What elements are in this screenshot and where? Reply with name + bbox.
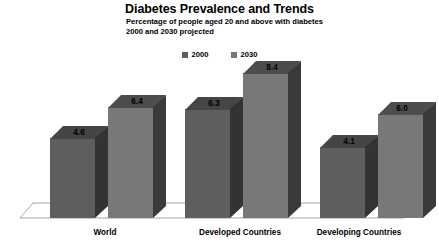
bar-side-face [95, 126, 108, 218]
bar-value-developing-2000: 4.1 [320, 137, 378, 146]
legend-swatch-icon-2000 [182, 52, 188, 58]
bar-value-developing-2030: 6.0 [373, 104, 431, 113]
category-label-developed: Developed Countries [185, 228, 295, 238]
bar-developing-2000[interactable] [320, 147, 365, 218]
bar-developed-2030[interactable] [243, 73, 288, 218]
legend-swatch-icon-2030 [231, 52, 237, 58]
legend-label-2030: 2030 [241, 51, 258, 59]
bar-value-world-2030: 6.4 [108, 97, 166, 106]
bar-developed-2000[interactable] [185, 109, 230, 218]
bar-side-face [153, 95, 166, 218]
bar-front-face [243, 73, 288, 218]
legend-label-2000: 2000 [192, 51, 209, 59]
bar-side-face [230, 97, 243, 218]
bars-layer: 4.6 6.4 [0, 66, 439, 226]
legend-entry-2030[interactable]: 2030 [231, 51, 258, 59]
chart-subtitle-line-1: Percentage of people aged 20 and above w… [126, 17, 426, 27]
bar-value-developed-2000: 6.3 [185, 99, 243, 108]
legend-entry-2000[interactable]: 2000 [182, 51, 209, 59]
category-label-developing: Developing Countries [300, 228, 418, 238]
bar-side-face [365, 135, 378, 218]
bar-world-2030[interactable] [108, 107, 153, 218]
bar-world-2000[interactable] [50, 138, 95, 218]
bar-front-face [50, 138, 95, 218]
chart-subtitle-line-2: 2000 and 2030 projected [126, 27, 426, 37]
bar-developing-2030[interactable] [378, 114, 423, 218]
diabetes-prevalence-chart: Diabetes Prevalence and Trends Percentag… [0, 0, 439, 248]
plot-area: 4.6 6.4 [0, 66, 439, 226]
bar-side-face [423, 102, 436, 218]
bar-side-face [288, 61, 301, 218]
category-label-world: World [60, 228, 150, 238]
subtitle-block: Percentage of people aged 20 and above w… [126, 17, 426, 36]
title-block: Diabetes Prevalence and Trends [0, 2, 439, 16]
bar-front-face [108, 107, 153, 218]
category-axis-labels: World Developed Countries Developing Cou… [0, 228, 439, 242]
bar-front-face [185, 109, 230, 218]
chart-legend: 2000 2030 [0, 51, 439, 59]
bar-front-face [378, 114, 423, 218]
bar-value-developed-2030: 8.4 [243, 63, 301, 72]
chart-title: Diabetes Prevalence and Trends [0, 2, 439, 16]
bar-value-world-2000: 4.6 [50, 128, 108, 137]
bar-front-face [320, 147, 365, 218]
